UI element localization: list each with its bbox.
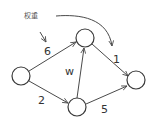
weight-top-right: 1 [113,53,120,66]
edge-bottom-top [77,48,84,98]
annotation-arrow-to-6 [40,32,46,42]
node-bottom [68,98,86,116]
graph-canvas: 权重 6 2 w 1 5 [0,0,156,124]
edge-top-right [92,44,128,76]
edge-bottom-right [86,86,127,104]
edge-left-bottom [29,81,68,103]
weight-bottom-right: 5 [101,103,108,116]
weight-left-bottom: 2 [38,94,45,107]
weight-left-top: 6 [44,45,51,58]
weight-bottom-top: w [65,65,74,78]
node-top [76,29,94,47]
annotation-weight-label: 权重 [24,11,38,20]
node-left [12,67,30,85]
node-right [127,71,145,89]
